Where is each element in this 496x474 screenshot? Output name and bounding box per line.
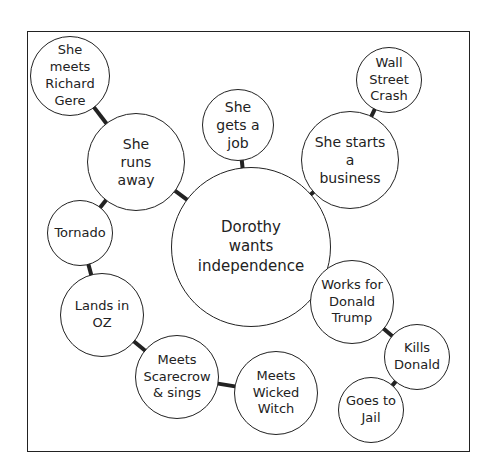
bubble-label: She gets a job [216,98,259,153]
bubble-node-wall-street: Wall Street Crash [356,47,422,113]
bubble-map-canvas: Dorothy wants independence She runs away… [0,0,496,474]
bubble-label: Wall Street Crash [369,55,409,106]
bubble-node-goes-jail: Goes to Jail [338,377,404,443]
bubble-label: Kills Donald [394,340,440,374]
bubble-node-gets-job: She gets a job [202,89,274,161]
bubble-label: Goes to Jail [346,393,396,427]
bubble-node-richard-gere: She meets Richard Gere [30,36,110,116]
bubble-node-center: Dorothy wants independence [171,167,331,327]
bubble-label: She meets Richard Gere [45,42,94,110]
bubble-node-wicked-witch: Meets Wicked Witch [234,351,318,435]
bubble-label: She runs away [118,135,155,190]
bubble-node-runs-away: She runs away [87,113,185,211]
bubble-label: Lands in OZ [75,298,129,332]
bubble-node-scarecrow: Meets Scarecrow & sings [135,335,219,419]
bubble-node-lands-oz: Lands in OZ [60,273,144,357]
bubble-label: Meets Wicked Witch [253,368,300,419]
bubble-label: Tornado [54,225,105,242]
bubble-label: Dorothy wants independence [198,218,304,277]
bubble-label: Works for Donald Trump [321,277,383,328]
bubble-label: She starts a business [315,133,386,188]
bubble-label: Meets Scarecrow & sings [143,352,210,403]
bubble-node-tornado: Tornado [47,200,113,266]
connector-runs_away-richard_gere [93,106,107,125]
bubble-node-works-trump: Works for Donald Trump [310,260,394,344]
bubble-node-starts-business: She starts a business [301,111,399,209]
bubble-node-kills-donald: Kills Donald [384,324,450,390]
